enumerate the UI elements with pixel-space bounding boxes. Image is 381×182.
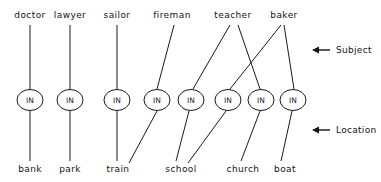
in-node-group: ININININININININ [17, 90, 306, 111]
location-edge-n4-to-train [129, 111, 157, 163]
in-node-n7[interactable]: IN [248, 90, 274, 111]
location-label-church: church [227, 164, 260, 174]
annotation-label-subject: Subject [336, 45, 372, 55]
location-edge-n8-to-boat [281, 111, 292, 161]
in-node-label: IN [113, 96, 121, 105]
in-node-label: IN [26, 96, 34, 105]
annotation-location: Location [312, 125, 376, 135]
location-label-school: school [165, 164, 196, 174]
location-label-group: bankparktrainschoolchurchboat [18, 164, 296, 174]
annotation-group: SubjectLocation [312, 45, 376, 135]
subject-label-teacher: teacher [214, 10, 251, 20]
subject-label-lawyer: lawyer [54, 10, 86, 20]
location-label-park: park [59, 164, 81, 174]
in-node-label: IN [289, 96, 297, 105]
subject-edge-baker-to-n6 [230, 25, 281, 89]
annotation-subject: Subject [312, 45, 372, 55]
in-node-label: IN [187, 96, 195, 105]
location-label-bank: bank [18, 164, 42, 174]
in-node-n1[interactable]: IN [17, 90, 43, 111]
subject-label-baker: baker [270, 10, 297, 20]
location-edge-n7-to-church [241, 111, 260, 161]
location-edge-n5-to-school [176, 111, 189, 161]
subject-label-doctor: doctor [14, 10, 45, 20]
subject-edge-baker-to-n8 [284, 25, 294, 89]
subject-label-group: doctorlawyersailorfiremanteacherbaker [14, 10, 297, 20]
in-node-label: IN [153, 96, 161, 105]
subject-edge-fireman-to-n4 [157, 25, 174, 89]
location-label-train: train [107, 164, 130, 174]
in-node-label: IN [257, 96, 265, 105]
subject-label-fireman: fireman [153, 10, 191, 20]
location-edge-group [30, 111, 292, 163]
annotation-arrow-head-subject [312, 47, 319, 54]
subject-edge-group [30, 25, 294, 89]
annotation-label-location: Location [336, 125, 376, 135]
subject-edge-teacher-to-n7 [238, 25, 260, 89]
in-node-label: IN [224, 96, 232, 105]
location-label-boat: boat [274, 164, 296, 174]
in-node-label: IN [66, 96, 74, 105]
annotation-arrow-head-location [312, 127, 319, 134]
subject-label-sailor: sailor [104, 10, 131, 20]
subject-edge-teacher-to-n5 [193, 25, 230, 89]
in-node-n8[interactable]: IN [280, 90, 306, 111]
in-node-n6[interactable]: IN [215, 90, 241, 111]
in-node-n2[interactable]: IN [57, 90, 83, 111]
location-edge-n6-to-school [188, 111, 226, 163]
in-node-n4[interactable]: IN [144, 90, 170, 111]
in-node-n5[interactable]: IN [178, 90, 204, 111]
diagram-canvas: ININININININININ doctorlawyersailorfirem… [0, 0, 381, 182]
in-node-n3[interactable]: IN [104, 90, 130, 111]
semantic-network-diagram: ININININININININ doctorlawyersailorfirem… [0, 0, 381, 182]
